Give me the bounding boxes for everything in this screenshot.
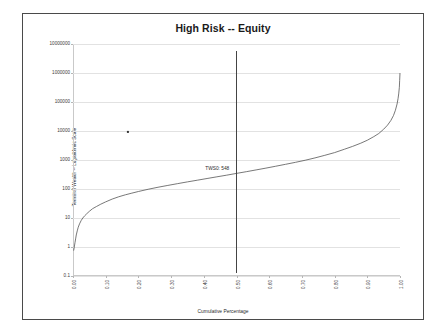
x-tick-label: 0.40 xyxy=(204,280,209,289)
data-curve xyxy=(73,44,400,276)
x-tick-mark xyxy=(335,276,336,278)
median-marker-label: TWS0: 548 xyxy=(205,165,233,170)
y-tick-label: 10000000 xyxy=(50,42,70,47)
chart-title: High Risk -- Equity xyxy=(23,22,423,34)
y-tick-label: 10000 xyxy=(57,129,70,134)
x-tick-mark xyxy=(269,276,270,278)
x-tick-label: 0.00 xyxy=(73,280,78,289)
outlier-point xyxy=(127,131,129,133)
x-tick-label: 0.20 xyxy=(138,280,143,289)
x-axis-title: Cumulative Percentage xyxy=(23,309,423,314)
x-tick-label: 0.70 xyxy=(302,280,307,289)
chart-frame: High Risk -- Equity Terminal Wealth -- L… xyxy=(22,13,424,320)
x-tick-label: 0.30 xyxy=(171,280,176,289)
y-tick-label: 100000 xyxy=(55,100,70,105)
y-tick-label: 0.1 xyxy=(64,274,70,279)
x-tick-label: 1.00 xyxy=(400,280,405,289)
y-tick-label: 10 xyxy=(65,216,70,221)
x-tick-mark xyxy=(204,276,205,278)
x-tick-mark xyxy=(73,276,74,278)
x-tick-label: 0.60 xyxy=(269,280,274,289)
x-tick-label: 0.50 xyxy=(237,280,242,289)
y-tick-label: 100 xyxy=(62,187,70,192)
x-tick-mark xyxy=(171,276,172,278)
x-tick-label: 0.10 xyxy=(106,280,111,289)
x-tick-mark xyxy=(400,276,401,278)
x-tick-label: 0.80 xyxy=(335,280,340,289)
x-tick-mark xyxy=(138,276,139,278)
x-tick-label: 0.90 xyxy=(367,280,372,289)
x-tick-mark xyxy=(367,276,368,278)
y-tick-label: 1000000 xyxy=(52,71,70,76)
y-tick-label: 1 xyxy=(67,245,70,250)
y-tick-label: 1000 xyxy=(60,158,70,163)
x-tick-mark xyxy=(237,276,238,278)
x-tick-mark xyxy=(302,276,303,278)
x-tick-mark xyxy=(106,276,107,278)
plot-area: 1000000010000001000001000010001001010.1 … xyxy=(73,44,400,276)
